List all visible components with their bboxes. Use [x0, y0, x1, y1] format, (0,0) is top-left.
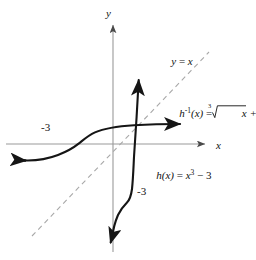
cubic-function-label: h(x) = x3 − 3: [137, 168, 225, 182]
y-intercept-label-minus-three: -3: [137, 185, 147, 197]
identity-label-equals: =: [176, 55, 188, 67]
radicand-text: x + 3: [241, 107, 256, 119]
identity-line-label: y = x: [152, 55, 207, 67]
cubic-label-arg: (x): [162, 169, 175, 182]
inverse-label-arg: (x): [191, 107, 204, 120]
x-intercept-label-minus-three: -3: [41, 121, 51, 133]
inverse-function-figure: x y y = x -3 h-1(x) = 3 x + 3 -3 h(x) = …: [0, 0, 256, 260]
x-axis-label: x: [215, 139, 221, 151]
radicand: x + 3: [217, 107, 256, 119]
y-axis-label: y: [105, 7, 111, 19]
radical-index: 3: [208, 102, 211, 109]
cubic-label-equals: =: [174, 169, 186, 181]
identity-label-x: x: [187, 55, 193, 67]
cubic-function-curve: [112, 80, 139, 238]
cubic-curve-bottom-arrow: [111, 238, 113, 243]
inverse-function-group: -3 h-1(x) = 3 x + 3: [22, 102, 256, 161]
cubic-label-minus-three: − 3: [194, 169, 212, 181]
axes-group: x y: [6, 7, 221, 252]
